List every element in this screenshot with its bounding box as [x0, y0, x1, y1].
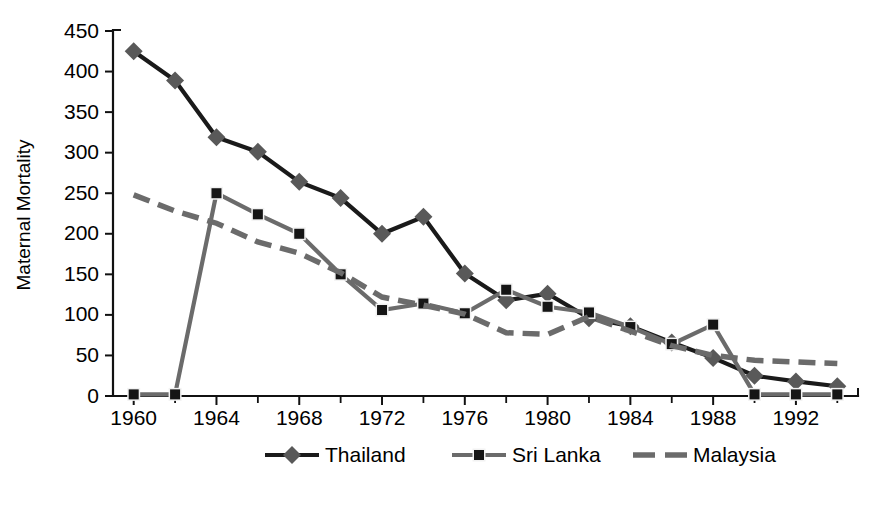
data-point-marker: [211, 188, 221, 198]
y-tick-label: 50: [76, 343, 99, 366]
chart-legend: ThailandSri LankaMalaysia: [265, 443, 776, 466]
y-tick-label: 450: [64, 19, 99, 42]
x-tick-label: 1988: [690, 406, 737, 429]
legend-label: Sri Lanka: [512, 443, 601, 466]
data-point-marker: [501, 285, 511, 295]
y-tick-label: 300: [64, 140, 99, 163]
chart-svg: 050100150200250300350400450 196019641968…: [0, 0, 896, 512]
y-tick-label: 350: [64, 100, 99, 123]
x-tick-label: 1972: [359, 406, 406, 429]
x-tick-label: 1976: [441, 406, 488, 429]
data-point-marker: [294, 229, 304, 239]
y-tick-label: 400: [64, 59, 99, 82]
x-tick-label: 1980: [524, 406, 571, 429]
legend-label: Malaysia: [693, 443, 776, 466]
x-tick-label: 1964: [193, 406, 240, 429]
data-point-marker: [791, 389, 801, 399]
y-tick-label: 100: [64, 302, 99, 325]
legend-label: Thailand: [325, 443, 406, 466]
y-tick-label: 150: [64, 262, 99, 285]
y-axis-title: Maternal Mortality: [13, 139, 34, 290]
data-point-marker: [832, 389, 842, 399]
data-point-marker: [377, 305, 387, 315]
legend-marker-square-icon: [474, 450, 484, 460]
x-tick-label: 1992: [773, 406, 820, 429]
chart-background: [0, 0, 896, 512]
data-point-marker: [129, 389, 139, 399]
maternal-mortality-chart: 050100150200250300350400450 196019641968…: [0, 0, 896, 512]
y-tick-label: 0: [87, 384, 99, 407]
data-point-marker: [253, 209, 263, 219]
y-tick-label: 250: [64, 181, 99, 204]
data-point-marker: [750, 389, 760, 399]
data-point-marker: [170, 389, 180, 399]
x-tick-label: 1968: [276, 406, 323, 429]
x-tick-label: 1960: [110, 406, 157, 429]
data-point-marker: [543, 302, 553, 312]
x-tick-label: 1984: [607, 406, 654, 429]
data-point-marker: [708, 320, 718, 330]
y-tick-label: 200: [64, 221, 99, 244]
